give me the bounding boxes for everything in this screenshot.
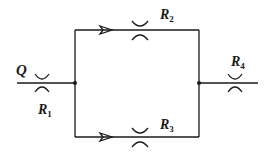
r4-label: R4 — [230, 54, 245, 71]
r3-label: R3 — [159, 117, 174, 134]
left-junction-node — [73, 81, 77, 85]
r2-label: R2 — [159, 7, 174, 24]
flow-network-diagram: Q R1 R2 R3 R4 — [0, 0, 271, 157]
flow-label-q: Q — [16, 62, 27, 78]
r1-label: R1 — [37, 102, 52, 119]
right-junction-node — [197, 81, 201, 85]
